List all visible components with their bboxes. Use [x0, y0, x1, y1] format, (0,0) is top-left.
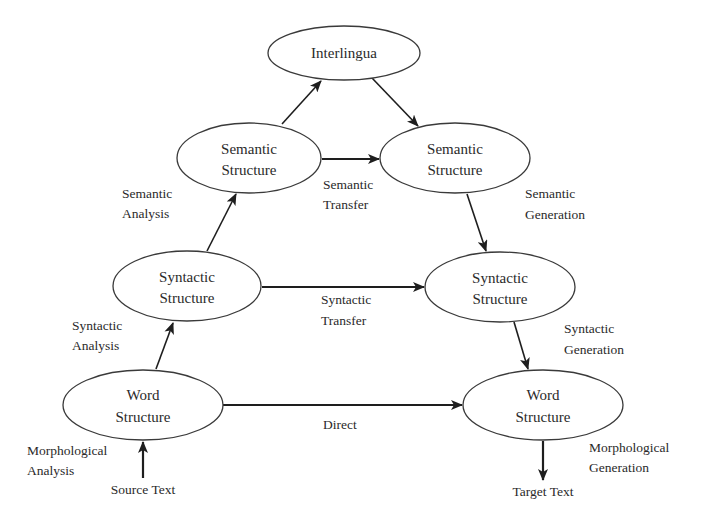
edge-syntactic-generation	[514, 322, 528, 369]
target-text-label: Target Text	[513, 484, 574, 499]
node-word-structure-source: Word Structure	[63, 370, 223, 440]
edge-label-line2: Generation	[589, 460, 649, 475]
edge-label-line1: Direct	[323, 417, 357, 432]
label-morphological-generation: Morphological Generation	[589, 440, 669, 475]
edge-label-line2: Transfer	[321, 313, 367, 328]
node-label-line1: Syntactic	[159, 269, 215, 285]
label-syntactic-analysis: Syntactic Analysis	[72, 318, 122, 353]
node-label-line1: Word	[527, 387, 560, 403]
node-label: Interlingua	[311, 45, 377, 61]
edge-label-line2: Transfer	[323, 197, 369, 212]
edge-interlingua-to-semantic-target	[372, 78, 418, 126]
edge-label-line2: Analysis	[72, 338, 119, 353]
source-text-label: Source Text	[111, 482, 176, 497]
node-label-line1: Semantic	[221, 141, 277, 157]
label-semantic-analysis: Semantic Analysis	[122, 186, 172, 221]
node-label-line1: Word	[127, 387, 160, 403]
node-label-line2: Structure	[116, 409, 171, 425]
edge-semantic-generation	[467, 194, 486, 251]
label-direct: Direct	[323, 417, 357, 432]
edge-label-line1: Syntactic	[72, 318, 122, 333]
edge-label-line1: Syntactic	[564, 321, 614, 336]
node-label-line2: Structure	[473, 291, 528, 307]
vauquois-triangle-diagram: Interlingua Semantic Structure Semantic …	[0, 0, 717, 526]
edge-label-line1: Semantic	[122, 186, 172, 201]
node-semantic-structure-source: Semantic Structure	[177, 123, 321, 193]
label-semantic-generation: Semantic Generation	[525, 186, 585, 222]
label-syntactic-generation: Syntactic Generation	[564, 321, 624, 357]
edge-syntactic-to-semantic-analysis	[207, 194, 236, 251]
edge-label-line2: Generation	[525, 207, 585, 222]
node-semantic-structure-target: Semantic Structure	[380, 123, 530, 193]
edge-label-line2: Analysis	[122, 206, 169, 221]
edge-label-line1: Semantic	[323, 177, 373, 192]
node-label-line1: Semantic	[427, 141, 483, 157]
edge-label-line2: Generation	[564, 342, 624, 357]
label-morphological-analysis: Morphological Analysis	[27, 443, 107, 478]
node-label-line2: Structure	[516, 409, 571, 425]
node-word-structure-target: Word Structure	[463, 370, 623, 440]
edge-label-line1: Syntactic	[321, 292, 371, 307]
node-label-line2: Structure	[428, 162, 483, 178]
node-label-line2: Structure	[222, 162, 277, 178]
edge-label-line1: Morphological	[27, 443, 107, 458]
edge-label-line1: Morphological	[589, 440, 669, 455]
label-syntactic-transfer: Syntactic Transfer	[321, 292, 371, 328]
edge-label-line1: Semantic	[525, 186, 575, 201]
edge-label-line2: Analysis	[27, 463, 74, 478]
node-syntactic-structure-target: Syntactic Structure	[425, 252, 575, 322]
node-syntactic-structure-source: Syntactic Structure	[113, 251, 261, 321]
edge-semantic-to-interlingua	[282, 81, 321, 124]
node-label-line2: Structure	[160, 290, 215, 306]
node-interlingua: Interlingua	[268, 26, 420, 80]
node-label-line1: Syntactic	[472, 270, 528, 286]
edge-morph-to-syntactic-analysis	[156, 323, 173, 369]
label-semantic-transfer: Semantic Transfer	[323, 177, 373, 212]
